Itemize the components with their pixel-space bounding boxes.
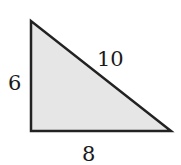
right-triangle bbox=[31, 21, 171, 131]
triangle-diagram: 6 10 8 bbox=[0, 0, 181, 165]
horizontal-side-label: 8 bbox=[82, 142, 95, 165]
hypotenuse-label: 10 bbox=[97, 47, 124, 71]
vertical-side-label: 6 bbox=[8, 71, 21, 95]
